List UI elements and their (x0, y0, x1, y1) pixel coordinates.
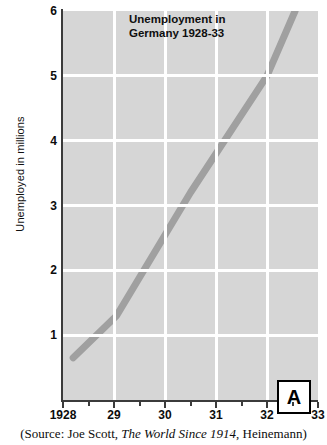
x-tick-mark (62, 402, 64, 408)
y-axis-spine (61, 9, 63, 402)
x-tick-label: 31 (209, 408, 222, 422)
gridline-horizontal (63, 334, 318, 337)
y-tick-label: 4 (13, 134, 57, 148)
x-tick-label: 1928 (50, 408, 77, 422)
panel-label-badge: A (277, 380, 311, 414)
gridline-vertical (215, 11, 218, 400)
y-tick-label: 1 (13, 328, 57, 342)
gridline-horizontal (63, 139, 318, 142)
y-tick-label: 2 (13, 263, 57, 277)
x-tick-mark-minor (139, 402, 141, 406)
source-caption: (Source: Joe Scott, The World Since 1914… (0, 426, 327, 442)
gridline-vertical (164, 11, 167, 400)
gridline-horizontal (63, 74, 318, 77)
series-line-unemployed (73, 11, 295, 358)
source-book-title: The World Since 1914 (121, 426, 236, 441)
x-tick-label: 32 (260, 408, 273, 422)
plot-area (63, 11, 318, 400)
x-tick-mark-minor (292, 402, 294, 406)
x-tick-mark (317, 402, 319, 408)
x-tick-mark-minor (88, 402, 90, 406)
unemployment-line-chart: Unemployed in millions 123456 1928293031… (0, 0, 327, 445)
gridline-vertical (266, 11, 269, 400)
y-tick-label: 3 (13, 199, 57, 213)
source-suffix: , Heinemann) (236, 426, 307, 441)
x-tick-mark (215, 402, 217, 408)
x-tick-mark (164, 402, 166, 408)
x-tick-mark (113, 402, 115, 408)
x-tick-label: 30 (158, 408, 171, 422)
gridline-horizontal (63, 204, 318, 207)
chart-title-line-2: Germany 1928-33 (129, 27, 225, 41)
chart-title-line-1: Unemployment in (129, 13, 225, 27)
x-tick-mark (266, 402, 268, 408)
chart-title: Unemployment in Germany 1928-33 (129, 13, 225, 40)
source-prefix: (Source: Joe Scott, (20, 426, 121, 441)
x-tick-mark-minor (190, 402, 192, 406)
gridline-vertical (113, 11, 116, 400)
x-tick-mark-minor (241, 402, 243, 406)
y-tick-label: 5 (13, 69, 57, 83)
y-tick-label: 6 (13, 4, 57, 18)
y-axis-tick-labels: 123456 (0, 0, 57, 445)
gridline-horizontal (63, 269, 318, 272)
x-tick-label: 29 (107, 408, 120, 422)
x-tick-label: 33 (311, 408, 324, 422)
